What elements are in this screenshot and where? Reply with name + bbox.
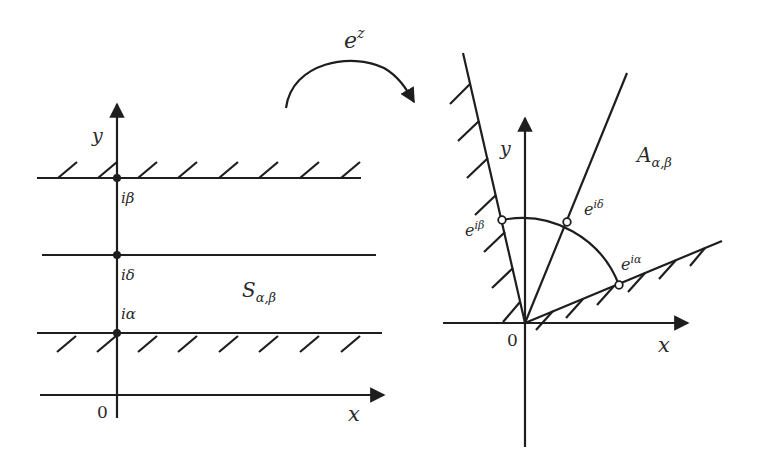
label-e-i-beta: eiβ	[465, 219, 484, 240]
point-i-delta	[113, 251, 121, 259]
unit-circle-arc	[502, 218, 619, 285]
conformal-map-diagram: y x 0 iβ iδ iα Sα,β ez	[0, 0, 759, 465]
label-e-i-delta: eiδ	[584, 198, 604, 219]
strip-x-label: x	[348, 402, 360, 426]
strip-region-label: Sα,β	[242, 278, 276, 305]
strip-origin-label: 0	[97, 402, 108, 422]
strip-lower-hatching	[57, 336, 360, 352]
label-i-delta: iδ	[121, 266, 135, 284]
label-e-i-alpha: eiα	[621, 253, 642, 274]
point-e-i-delta	[563, 218, 571, 226]
label-i-alpha: iα	[121, 305, 136, 323]
strip-y-label: y	[91, 124, 103, 146]
mapping-label: ez	[344, 25, 365, 53]
angle-region-label: Aα,β	[635, 143, 672, 170]
strip-upper-hatching	[58, 162, 360, 178]
ray-beta-hatching	[450, 84, 520, 322]
point-i-beta	[113, 174, 121, 182]
strip-diagram: y x 0 iβ iδ iα Sα,β	[37, 104, 384, 426]
mapping-arrow: ez	[286, 25, 414, 108]
point-e-i-alpha	[615, 281, 623, 289]
label-i-beta: iβ	[121, 189, 135, 207]
angle-origin-label: 0	[507, 330, 518, 350]
ray-delta	[525, 73, 627, 323]
ray-beta	[463, 53, 525, 323]
angle-x-label: x	[658, 333, 670, 357]
point-i-alpha	[113, 329, 121, 337]
angle-diagram: y x 0 eiβ eiδ eiα Aα,β	[443, 53, 722, 447]
point-e-i-beta	[498, 216, 506, 224]
curved-arrow-icon	[286, 61, 414, 108]
angle-y-label: y	[499, 137, 511, 159]
